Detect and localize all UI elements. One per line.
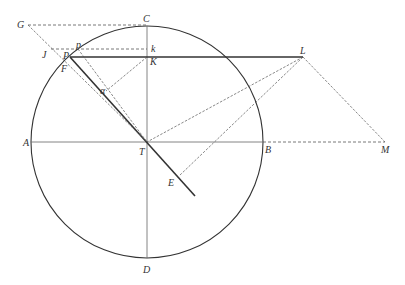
label-D: D <box>142 264 151 275</box>
label-P: P <box>62 50 69 61</box>
segment-LM <box>303 57 385 142</box>
label-A: A <box>22 137 30 148</box>
label-k: k <box>151 43 156 54</box>
label-C: C <box>143 13 150 24</box>
segment-PT-extended <box>70 57 195 196</box>
label-J: J <box>42 49 47 60</box>
label-K: K <box>149 56 158 67</box>
label-alpha: α <box>100 85 106 96</box>
label-B: B <box>265 144 271 155</box>
segment-pT <box>78 49 147 142</box>
geometry-diagram: C G J p k P K F α A T B M L E D <box>0 0 405 285</box>
label-E: E <box>167 177 174 188</box>
label-L: L <box>299 45 306 56</box>
segment-K-alpha <box>106 57 147 91</box>
label-G: G <box>17 19 24 30</box>
label-F: F <box>60 63 68 74</box>
label-T: T <box>139 146 146 157</box>
label-M: M <box>380 144 390 155</box>
segment-LT <box>147 57 303 142</box>
diagram-stage: C G J p k P K F α A T B M L E D <box>0 0 405 285</box>
label-p-upper: p <box>75 39 81 50</box>
